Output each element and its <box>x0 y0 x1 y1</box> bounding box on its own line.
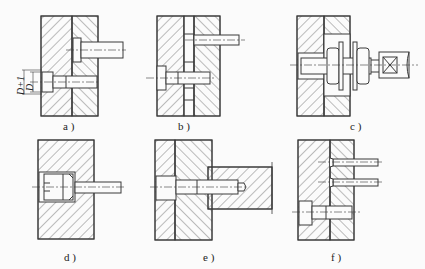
panel-f-label: f ) <box>331 251 341 263</box>
panel-a-drawing <box>22 16 126 116</box>
panel-f-drawing <box>292 140 382 240</box>
dimension-inner-label: D <box>24 84 35 91</box>
panel-b-drawing <box>146 16 245 116</box>
panel-d-drawing <box>32 140 126 239</box>
panel-e-label: e ) <box>203 251 214 263</box>
panel-a-label: a ) <box>63 120 74 132</box>
panel-d-label: d ) <box>64 251 76 263</box>
panel-c-drawing <box>290 16 418 116</box>
panel-b-label: b ) <box>178 120 190 132</box>
technical-drawing: D+1 D a ) b ) c ) d ) e ) f ) <box>0 0 425 269</box>
drawing-svg <box>0 0 425 269</box>
panel-c-label: c ) <box>350 120 361 132</box>
panel-e-drawing <box>150 140 272 240</box>
